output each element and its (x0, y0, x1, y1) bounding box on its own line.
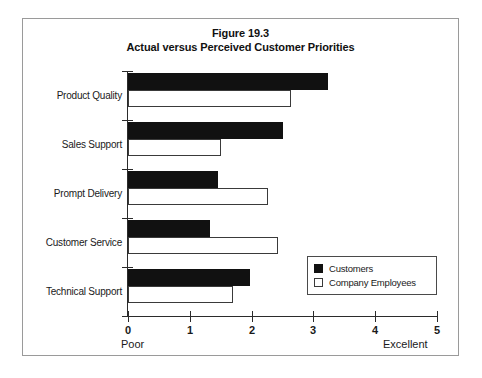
legend-swatch-filled-icon (314, 264, 323, 273)
x-axis-tick-label: 2 (237, 324, 267, 336)
chart-legend: Customers Company Employees (307, 256, 437, 295)
bar-customers (128, 171, 218, 188)
legend-item-company-employees: Company Employees (314, 275, 430, 289)
x-axis-tick (190, 311, 191, 322)
figure-root: Figure 19.3 Actual versus Perceived Cust… (0, 0, 482, 378)
axis-caption-low: Poor (121, 338, 144, 350)
x-axis-tick-label: 1 (175, 324, 205, 336)
bar-company-employees (128, 237, 278, 254)
x-axis-tick (313, 311, 314, 322)
category-label: Product Quality (12, 90, 122, 101)
x-axis-tick (128, 311, 129, 322)
x-axis-tick (437, 311, 438, 322)
bar-customers (128, 269, 250, 286)
x-axis-tick-label: 0 (113, 324, 143, 336)
x-axis-tick-label: 4 (360, 324, 390, 336)
x-axis-tick-label: 5 (422, 324, 452, 336)
bar-company-employees (128, 286, 233, 303)
axis-caption-high: Excellent (383, 338, 428, 350)
plot-area: 0 1 2 3 4 5 Product Quality Sales Suppor… (0, 0, 482, 378)
bar-company-employees (128, 188, 268, 205)
category-label: Prompt Delivery (12, 188, 122, 199)
x-axis-tick (375, 311, 376, 322)
x-axis-line (128, 316, 438, 317)
category-label: Sales Support (12, 139, 122, 150)
category-label: Technical Support (12, 286, 122, 297)
y-axis-tick (122, 169, 133, 170)
bar-customers (128, 73, 328, 90)
bar-company-employees (128, 139, 221, 156)
bar-customers (128, 122, 283, 139)
category-label: Customer Service (12, 237, 122, 248)
bar-customers (128, 220, 210, 237)
y-axis-tick (122, 120, 133, 121)
legend-label: Company Employees (329, 277, 416, 288)
y-axis-tick (122, 71, 133, 72)
bar-company-employees (128, 90, 291, 107)
y-axis-tick (122, 218, 133, 219)
x-axis-tick (252, 311, 253, 322)
x-axis-tick-label: 3 (298, 324, 328, 336)
legend-label: Customers (329, 263, 373, 274)
legend-swatch-outlined-icon (314, 278, 323, 287)
legend-item-customers: Customers (314, 261, 430, 275)
y-axis-tick (122, 267, 133, 268)
